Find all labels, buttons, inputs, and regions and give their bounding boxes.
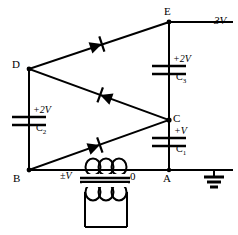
capacitor-c3-subscript: 3 [183, 77, 187, 85]
diode-middle [97, 87, 114, 106]
transformer [80, 159, 130, 228]
capacitor-c1-voltage: +V [174, 126, 187, 136]
output-terminal-label: 3V [214, 15, 226, 26]
node-label-d: D [12, 59, 20, 70]
capacitor-c2-subscript: 2 [43, 128, 47, 136]
junction-d [27, 67, 32, 72]
capacitor-c3-letter: C [176, 71, 183, 82]
capacitor-c2-voltage: +2V [33, 105, 51, 115]
junction-e [167, 20, 172, 25]
circuit-diagram-canvas: E D C B A 0 3V +2V C3 +V C1 +2V C2 ±V [0, 0, 238, 235]
capacitor-c1-name: C1 [176, 144, 186, 157]
schematic-svg [0, 0, 238, 235]
node-label-zero: 0 [130, 171, 136, 182]
capacitor-c1-subscript: 1 [183, 149, 187, 157]
node-label-a: A [163, 173, 171, 184]
node-label-b: B [13, 173, 20, 184]
node-label-c: C [173, 113, 180, 124]
capacitor-c3-name: C3 [176, 72, 186, 85]
capacitor-c1-letter: C [176, 143, 183, 154]
capacitor-c2-name: C2 [36, 123, 46, 136]
node-label-e: E [164, 6, 171, 17]
capacitor-c2-letter: C [36, 122, 43, 133]
diode-top [88, 36, 104, 55]
junction-b [27, 168, 32, 173]
diode-bottom [86, 137, 103, 156]
earth-ground-icon [204, 170, 224, 187]
transformer-secondary-voltage: ±V [60, 171, 72, 181]
capacitor-c3-voltage: +2V [173, 54, 191, 64]
junction-c [166, 117, 171, 122]
